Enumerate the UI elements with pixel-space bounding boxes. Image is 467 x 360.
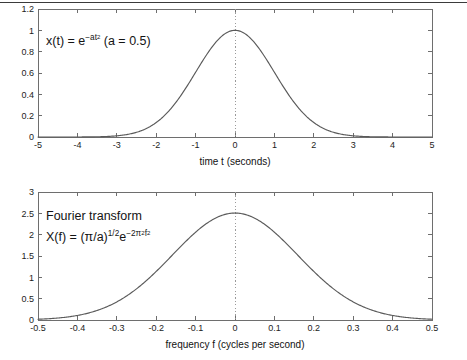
top-xtick-label: -4	[73, 140, 81, 150]
top-annotation-prefix: x(t) = e	[46, 34, 85, 48]
bottom-ytick-label: 0.5	[21, 294, 34, 304]
bottom-xtick-label: 0.1	[268, 323, 281, 333]
top-xtick-label: -5	[34, 140, 42, 150]
bottom-annotation-prefix: X(f) = (π/a)	[46, 230, 108, 244]
top-panel-group: 0 0.2 0.4 0.6 0.8 1 1.2 -5 -4 -3 -2 -1 0…	[21, 4, 434, 167]
bottom-xaxis-label: frequency f (cycles per second)	[166, 339, 305, 350]
bottom-xtick-label: 0.5	[426, 323, 439, 333]
top-ytick-label: 1.2	[21, 4, 34, 14]
bottom-xtick-label: -0.1	[188, 323, 204, 333]
top-xtick-label: 0	[232, 140, 237, 150]
bottom-xtick-label: -0.2	[148, 323, 164, 333]
bottom-annotation-title: Fourier transform	[46, 207, 142, 225]
bottom-xtick-label: 0.4	[386, 323, 399, 333]
bottom-annotation-formula: X(f) = (π/a)1/2e−2π2f2	[46, 228, 150, 246]
top-ytick-label: 0.2	[21, 111, 34, 121]
top-ytick-label: 0.8	[21, 47, 34, 57]
bottom-ytick-label: 1	[29, 273, 34, 283]
bottom-annotation-power-half: 1/2	[108, 229, 119, 238]
bottom-annotation-exponent: −2π	[126, 229, 141, 238]
two-panel-gaussian-figure: 0 0.2 0.4 0.6 0.8 1 1.2 -5 -4 -3 -2 -1 0…	[0, 0, 467, 360]
top-xtick-label: 2	[311, 140, 316, 150]
bottom-xtick-label: 0.2	[308, 323, 321, 333]
top-ytick-label: 0.4	[21, 90, 34, 100]
bottom-ytick-label: 1.5	[21, 251, 34, 261]
figure-page: 0 0.2 0.4 0.6 0.8 1 1.2 -5 -4 -3 -2 -1 0…	[0, 0, 467, 360]
top-xtick-label: 5	[429, 140, 434, 150]
top-ytick-label: 1	[29, 26, 34, 36]
top-xtick-label: -1	[192, 140, 200, 150]
top-xtick-label: -2	[152, 140, 160, 150]
top-annotation-suffix: (a = 0.5)	[100, 34, 150, 48]
bottom-xtick-label: -0.5	[30, 323, 46, 333]
top-xtick-label: 4	[390, 140, 395, 150]
top-annotation-exponent: −at	[85, 33, 97, 42]
top-xtick-label: 1	[272, 140, 277, 150]
top-xtick-label: 3	[351, 140, 356, 150]
bottom-ytick-label: 3	[29, 187, 34, 197]
top-annotation: x(t) = e−at2 (a = 0.5)	[46, 32, 151, 50]
top-xtick-label: -3	[113, 140, 121, 150]
bottom-ytick-label: 2.5	[21, 209, 34, 219]
bottom-ytick-label: 2	[29, 230, 34, 240]
bottom-annotation-f-power: 2	[147, 230, 150, 236]
top-ytick-label: 0.6	[21, 68, 34, 78]
top-xaxis-label: time t (seconds)	[199, 156, 270, 167]
bottom-xtick-label: -0.3	[109, 323, 125, 333]
bottom-xtick-label: 0.3	[347, 323, 360, 333]
bottom-xtick-label: -0.4	[70, 323, 86, 333]
plot-canvas: 0 0.2 0.4 0.6 0.8 1 1.2 -5 -4 -3 -2 -1 0…	[0, 0, 467, 360]
bottom-xtick-label: 0	[232, 323, 237, 333]
